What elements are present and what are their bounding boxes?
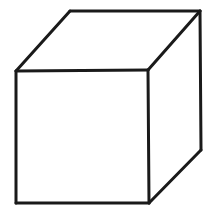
figure-canvas <box>0 0 214 216</box>
cube-edge-front-top <box>16 70 148 71</box>
cube-edge-back-right-vertical <box>200 11 201 150</box>
cube-edge-front-right <box>148 70 149 203</box>
cube-face-front <box>16 70 149 203</box>
cube-drawing <box>0 0 214 216</box>
